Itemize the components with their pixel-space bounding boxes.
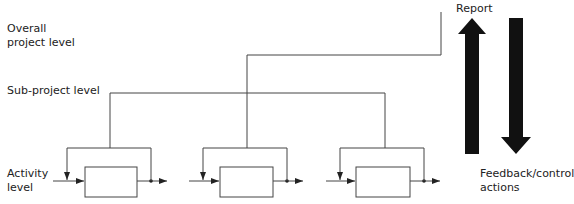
overall-connector xyxy=(247,12,441,148)
activity-box-3 xyxy=(356,167,410,197)
activity-unit-3 xyxy=(326,148,440,197)
activity-unit-1 xyxy=(53,148,167,197)
activity-unit-2 xyxy=(189,148,303,197)
activity-box-2 xyxy=(220,167,273,197)
report-up-arrow-icon xyxy=(458,18,486,154)
activity-box-1 xyxy=(85,167,137,197)
feedback-down-arrow-icon xyxy=(501,18,531,154)
